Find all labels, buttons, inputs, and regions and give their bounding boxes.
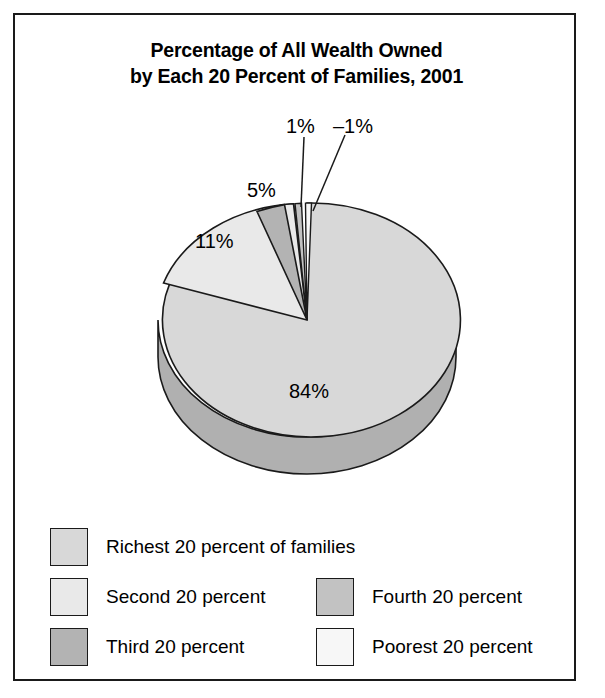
legend-swatch-second (50, 578, 88, 616)
legend-label-third: Third 20 percent (106, 636, 244, 658)
slice-label-third: 5% (247, 179, 276, 202)
pie-chart-svg (15, 95, 578, 495)
legend-label-richest: Richest 20 percent of families (106, 536, 355, 558)
pie-chart: 1% –1% 5% 11% 84% (15, 95, 578, 495)
leader-line-poorest (313, 135, 345, 211)
legend-item-second[interactable]: Second 20 percent (50, 576, 266, 618)
legend-label-poorest: Poorest 20 percent (372, 636, 533, 658)
legend-label-fourth: Fourth 20 percent (372, 586, 522, 608)
legend: Richest 20 percent of families Second 20… (50, 520, 560, 680)
chart-title-line-2: by Each 20 Percent of Families, 2001 (15, 63, 578, 89)
legend-swatch-richest (50, 528, 88, 566)
pie-leader-lines (301, 135, 345, 211)
legend-label-second: Second 20 percent (106, 586, 266, 608)
legend-item-third[interactable]: Third 20 percent (50, 626, 244, 668)
legend-item-poorest[interactable]: Poorest 20 percent (316, 626, 533, 668)
slice-label-poorest: –1% (333, 115, 373, 138)
leader-line-fourth (301, 137, 304, 207)
legend-item-richest[interactable]: Richest 20 percent of families (50, 526, 355, 568)
chart-title-line-1: Percentage of All Wealth Owned (15, 37, 578, 63)
legend-item-fourth[interactable]: Fourth 20 percent (316, 576, 522, 618)
slice-label-fourth: 1% (286, 115, 315, 138)
page-title: Percentage of All Wealth Owned by Each 2… (15, 37, 578, 89)
slice-label-second: 11% (195, 230, 234, 253)
figure-frame: Percentage of All Wealth Owned by Each 2… (13, 13, 576, 681)
legend-swatch-poorest (316, 628, 354, 666)
legend-swatch-fourth (316, 578, 354, 616)
legend-swatch-third (50, 628, 88, 666)
slice-label-richest: 84% (289, 380, 329, 403)
